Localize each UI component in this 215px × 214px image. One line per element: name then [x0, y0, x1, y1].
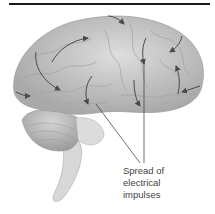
cerebrum: [14, 16, 204, 114]
cerebellum: [22, 110, 81, 151]
label-line: impulses: [123, 189, 164, 201]
label-line: Spread of: [123, 165, 164, 177]
label-line: electrical: [123, 177, 164, 189]
impulse-label: Spread of electrical impulses: [123, 165, 164, 201]
brain-illustration: [0, 0, 215, 214]
